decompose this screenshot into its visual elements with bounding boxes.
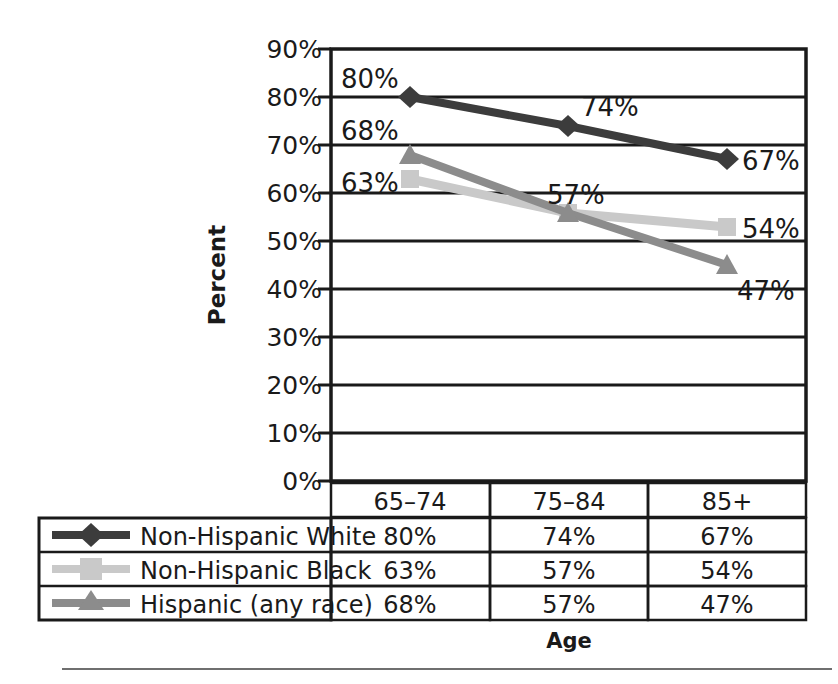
data-point-black-85-plus <box>718 218 736 236</box>
table-value-white-75-84: 74% <box>542 523 595 551</box>
data-label-hispanic-65-74: 68% <box>341 116 399 146</box>
table-value-black-85-plus: 54% <box>700 557 753 585</box>
y-tick-10: 10% <box>266 419 322 448</box>
table-header-label-75-84: 75–84 <box>532 488 605 516</box>
table-header-label-85-plus: 85+ <box>702 488 753 516</box>
square-icon <box>80 558 102 580</box>
table-value-white-85-plus: 67% <box>700 523 753 551</box>
table-header-row: 65–74 75–84 85+ <box>331 483 806 517</box>
y-tick-0: 0% <box>282 467 322 496</box>
y-tick-80: 80% <box>266 83 322 112</box>
data-label-white-65-74: 80% <box>341 64 399 94</box>
data-label-white-75-84: 74% <box>581 92 639 122</box>
data-label-black-65-74: 63% <box>341 168 399 198</box>
y-tick-90: 90% <box>266 35 322 64</box>
x-axis-title: Age <box>546 629 592 653</box>
table-header-label-65-74: 65–74 <box>373 488 446 516</box>
data-label-hispanic-85-plus: 47% <box>737 276 795 306</box>
legend-label-non-hispanic-black: Non-Hispanic Black <box>140 557 371 585</box>
table-value-hispanic-65-74: 68% <box>383 591 436 619</box>
table-value-hispanic-85-plus: 47% <box>700 591 753 619</box>
y-tick-70: 70% <box>266 131 322 160</box>
data-label-hispanic-75-84: 57% <box>547 180 605 210</box>
data-point-black-65-74 <box>401 170 419 188</box>
chart-figure: 90% 80% 70% 60% 50% 40% 30% 20% 10% 0% P… <box>0 0 838 684</box>
table-value-black-65-74: 63% <box>383 557 436 585</box>
data-label-black-85-plus: 54% <box>742 214 800 244</box>
table-value-black-75-84: 57% <box>542 557 595 585</box>
y-axis-title: Percent <box>204 225 230 325</box>
y-tick-40: 40% <box>266 275 322 304</box>
y-tick-60: 60% <box>266 179 322 208</box>
legend-label-non-hispanic-white: Non-Hispanic White <box>140 523 376 551</box>
y-tick-30: 30% <box>266 323 322 352</box>
y-tick-20: 20% <box>266 371 322 400</box>
table-value-hispanic-75-84: 57% <box>542 591 595 619</box>
table-value-white-65-74: 80% <box>383 523 436 551</box>
legend-label-hispanic: Hispanic (any race) <box>140 591 373 619</box>
y-tick-50: 50% <box>266 227 322 256</box>
data-label-white-85-plus: 67% <box>742 146 800 176</box>
